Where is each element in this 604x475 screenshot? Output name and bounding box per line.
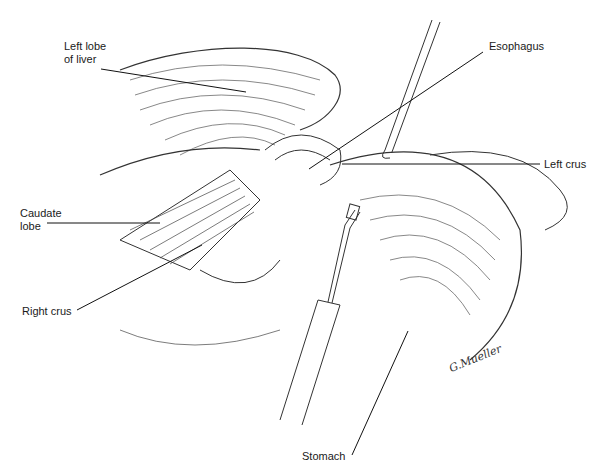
label-caudate-lobe: Caudate lobe (20, 207, 62, 233)
label-left-crus: Left crus (544, 158, 586, 171)
grasper-instrument (280, 204, 360, 425)
leader-lines (47, 52, 540, 455)
caudate-and-right-crus-drawing (100, 148, 280, 345)
label-left-lobe-of-liver: Left lobe of liver (64, 40, 106, 66)
label-stomach: Stomach (302, 450, 345, 463)
stomach-drawing (330, 152, 567, 360)
retractor-instrument-top (382, 20, 440, 158)
label-esophagus: Esophagus (489, 40, 544, 53)
esophagus-drawing (265, 135, 341, 185)
liver-left-lobe-drawing (120, 48, 340, 155)
label-right-crus: Right crus (22, 305, 72, 318)
anatomical-illustration (0, 0, 604, 475)
